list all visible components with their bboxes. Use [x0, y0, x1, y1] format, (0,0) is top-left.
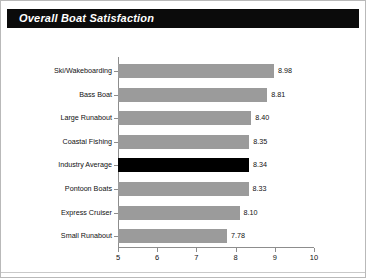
category-label: Bass Boat: [2, 90, 112, 99]
y-axis-tick: [114, 213, 118, 214]
bottom-rule: [1, 272, 366, 273]
bar-row: Express Cruiser8.10: [1, 201, 366, 225]
bar-value-label: 7.78: [231, 231, 245, 240]
y-axis-tick: [114, 118, 118, 119]
x-axis-tick-label: 7: [186, 253, 206, 263]
category-label: Industry Average: [2, 160, 112, 169]
x-axis-tick-label: 10: [304, 253, 324, 263]
y-axis-tick: [114, 95, 118, 96]
bar: [118, 64, 274, 78]
category-label: Ski/Wakeboarding: [2, 66, 112, 75]
y-axis-tick: [114, 189, 118, 190]
bar-row: Large Runabout8.40: [1, 106, 366, 130]
bar: [118, 229, 227, 243]
bar-value-label: 8.35: [253, 137, 267, 146]
bar: [118, 111, 251, 125]
x-axis-tick-label: 8: [226, 253, 246, 263]
chart-figure: Overall Boat Satisfaction Ski/Wakeboardi…: [0, 0, 366, 278]
bar-row: Pontoon Boats8.33: [1, 177, 366, 201]
y-axis-tick: [114, 142, 118, 143]
x-axis-tick-label: 9: [265, 253, 285, 263]
bar: [118, 158, 249, 172]
x-axis-tick: [196, 248, 197, 252]
category-label: Express Cruiser: [2, 208, 112, 217]
category-label: Small Runabout: [2, 231, 112, 240]
x-axis-tick-label: 5: [108, 253, 128, 263]
bar: [118, 88, 267, 102]
x-axis-tick: [314, 248, 315, 252]
category-label: Coastal Fishing: [2, 137, 112, 146]
x-axis-tick: [236, 248, 237, 252]
bar-row: Ski/Wakeboarding8.98: [1, 59, 366, 83]
bar-row: Small Runabout7.78: [1, 224, 366, 248]
bar-value-label: 8.81: [271, 90, 285, 99]
x-axis-tick: [157, 248, 158, 252]
y-axis-tick: [114, 165, 118, 166]
x-axis-tick: [275, 248, 276, 252]
plot-area: Ski/Wakeboarding8.98Bass Boat8.81Large R…: [1, 1, 366, 278]
bar-value-label: 8.34: [253, 160, 267, 169]
bar-row: Bass Boat8.81: [1, 83, 366, 107]
bar-value-label: 8.10: [244, 208, 258, 217]
bar-value-label: 8.98: [278, 66, 292, 75]
bar: [118, 206, 240, 220]
bar-row: Coastal Fishing8.35: [1, 130, 366, 154]
x-axis-tick-label: 6: [147, 253, 167, 263]
bar-row: Industry Average8.34: [1, 153, 366, 177]
bar: [118, 135, 249, 149]
category-label: Pontoon Boats: [2, 184, 112, 193]
y-axis-tick: [114, 71, 118, 72]
category-label: Large Runabout: [2, 113, 112, 122]
bar: [118, 182, 249, 196]
bar-value-label: 8.33: [253, 184, 267, 193]
x-axis-tick: [118, 248, 119, 252]
y-axis-tick: [114, 236, 118, 237]
bar-value-label: 8.40: [255, 113, 269, 122]
